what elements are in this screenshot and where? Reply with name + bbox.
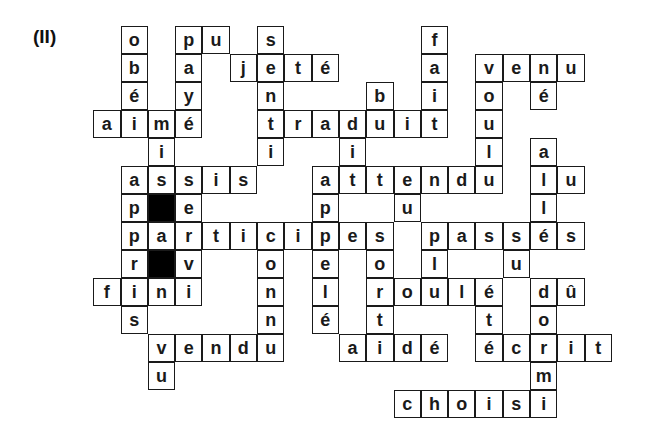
grid-cell: é — [121, 82, 148, 110]
grid-cell: d — [530, 278, 557, 306]
grid-cell: é — [530, 222, 557, 250]
grid-cell: n — [421, 166, 448, 194]
grid-cell: p — [312, 194, 339, 222]
grid-cell: l — [475, 138, 502, 166]
grid-cell: l — [312, 278, 339, 306]
grid-cell: é — [175, 110, 202, 138]
grid-cell: e — [503, 54, 530, 82]
grid-cell: u — [557, 54, 584, 82]
grid-cell: é — [475, 278, 502, 306]
grid-cell: n — [257, 278, 284, 306]
grid-cell: e — [339, 222, 366, 250]
grid-cell: t — [421, 110, 448, 138]
grid-cell: a — [312, 166, 339, 194]
grid-cell: v — [148, 334, 175, 362]
grid-cell: u — [202, 26, 229, 54]
grid-cell: s — [503, 222, 530, 250]
grid-cell: r — [530, 334, 557, 362]
grid-cell: a — [312, 110, 339, 138]
grid-cell: i — [121, 278, 148, 306]
grid-cell: r — [284, 110, 311, 138]
grid-cell: c — [503, 334, 530, 362]
grid-cell: l — [530, 194, 557, 222]
grid-cell: t — [366, 306, 393, 334]
grid-cell: a — [339, 334, 366, 362]
grid-cell: j — [230, 54, 257, 82]
grid-cell: o — [394, 278, 421, 306]
grid-cell: v — [175, 250, 202, 278]
grid-cell: i — [339, 138, 366, 166]
grid-cell: i — [284, 222, 311, 250]
grid-cell: m — [148, 110, 175, 138]
grid-cell: é — [475, 334, 502, 362]
grid-cell: i — [175, 278, 202, 306]
grid-cell: a — [530, 138, 557, 166]
grid-cell: c — [257, 222, 284, 250]
grid-cell: d — [339, 110, 366, 138]
grid-cell: l — [421, 250, 448, 278]
grid-cell: h — [421, 390, 448, 418]
grid-cell: u — [475, 110, 502, 138]
grid-cell: a — [448, 222, 475, 250]
grid-cell: o — [366, 250, 393, 278]
grid-cell: i — [366, 334, 393, 362]
grid-cell: o — [475, 82, 502, 110]
grid-cell: s — [557, 222, 584, 250]
grid-cell: u — [475, 166, 502, 194]
grid-cell: o — [121, 26, 148, 54]
grid-cell: s — [175, 166, 202, 194]
grid-cell: y — [175, 82, 202, 110]
grid-cell: t — [585, 334, 612, 362]
grid-cell: t — [339, 166, 366, 194]
grid-cell: e — [312, 250, 339, 278]
grid-cell: o — [448, 390, 475, 418]
grid-cell: r — [175, 222, 202, 250]
grid-cell: é — [421, 334, 448, 362]
grid-cell: d — [230, 334, 257, 362]
grid-cell: i — [394, 110, 421, 138]
grid-cell: n — [530, 54, 557, 82]
grid-cell: p — [421, 222, 448, 250]
grid-cell: s — [475, 222, 502, 250]
grid-cell: s — [148, 166, 175, 194]
grid-cell: t — [202, 222, 229, 250]
grid-cell: u — [421, 278, 448, 306]
grid-cell: u — [148, 362, 175, 390]
black-cell — [148, 194, 175, 222]
crossword-grid: opusfbajetéavenuéynbioéaimétraduituiiila… — [94, 27, 613, 419]
grid-cell: u — [557, 166, 584, 194]
grid-cell: u — [394, 194, 421, 222]
grid-cell: o — [257, 250, 284, 278]
grid-cell: v — [475, 54, 502, 82]
grid-cell: é — [312, 54, 339, 82]
grid-cell: e — [175, 194, 202, 222]
grid-cell: a — [148, 222, 175, 250]
grid-cell: i — [202, 166, 229, 194]
grid-cell: u — [503, 250, 530, 278]
grid-cell: i — [421, 82, 448, 110]
grid-cell: f — [93, 278, 120, 306]
grid-cell: i — [257, 138, 284, 166]
grid-cell: s — [503, 390, 530, 418]
grid-cell: i — [230, 222, 257, 250]
grid-cell: e — [257, 54, 284, 82]
grid-cell: p — [312, 222, 339, 250]
grid-cell: n — [202, 334, 229, 362]
grid-cell: s — [230, 166, 257, 194]
grid-cell: c — [394, 390, 421, 418]
puzzle-label: (II) — [33, 26, 56, 48]
grid-cell: d — [448, 166, 475, 194]
black-cell — [148, 250, 175, 278]
grid-cell: n — [257, 306, 284, 334]
grid-cell: i — [475, 390, 502, 418]
grid-cell: e — [175, 334, 202, 362]
grid-cell: u — [257, 334, 284, 362]
grid-cell: p — [121, 194, 148, 222]
grid-cell: é — [530, 82, 557, 110]
grid-cell: s — [257, 26, 284, 54]
grid-cell: l — [448, 278, 475, 306]
grid-cell: p — [175, 26, 202, 54]
grid-cell: n — [148, 278, 175, 306]
grid-cell: é — [312, 306, 339, 334]
grid-cell: n — [257, 82, 284, 110]
